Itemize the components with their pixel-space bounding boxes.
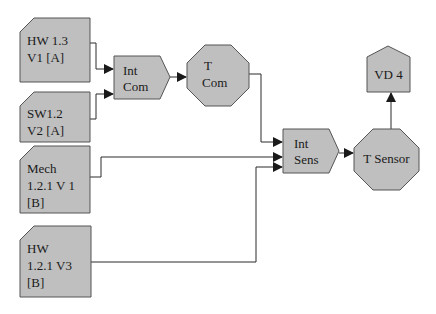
dependency-diagram: HW 1.3 V1 [A] SW1.2 V2 [A] Mech 1.2.1 V … xyxy=(0,0,436,314)
node-intsens[interactable]: Int Sens xyxy=(283,129,339,173)
node-label-line: VD 4 xyxy=(374,67,403,82)
node-label-line: V2 [A] xyxy=(27,123,64,138)
svg-text:T Sensor: T Sensor xyxy=(363,151,410,166)
node-label-line: [B] xyxy=(27,195,44,210)
svg-text:Int: Int xyxy=(123,63,138,78)
node-label-line: HW xyxy=(27,241,49,256)
svg-text:Sens: Sens xyxy=(294,152,319,167)
node-label-line: SW1.2 xyxy=(27,106,63,121)
node-sw12[interactable]: SW1.2 V2 [A] xyxy=(20,92,90,142)
edge-mech121-intsens xyxy=(90,157,282,177)
node-label-line: [B] xyxy=(27,275,44,290)
node-label-line: V1 [A] xyxy=(27,50,64,65)
node-label-line: Com xyxy=(123,79,148,94)
node-label-line: 1.2.1 V 1 xyxy=(27,178,75,193)
node-mech121[interactable]: Mech 1.2.1 V 1 [B] xyxy=(20,146,90,213)
svg-text:HW 1.3: HW 1.3 xyxy=(27,33,68,48)
svg-text:V2 [A]: V2 [A] xyxy=(27,123,64,138)
node-intcom[interactable]: Int Com xyxy=(114,56,170,99)
svg-text:Com: Com xyxy=(123,79,148,94)
node-label-line: Sens xyxy=(294,152,319,167)
svg-text:[B]: [B] xyxy=(27,195,44,210)
node-label-line: Mech xyxy=(27,161,57,176)
svg-text:1.2.1 V3: 1.2.1 V3 xyxy=(27,258,72,273)
node-label-line: Int xyxy=(294,136,309,151)
edge-hw13-intcom xyxy=(90,43,113,69)
svg-text:Mech: Mech xyxy=(27,161,57,176)
node-label-line: Int xyxy=(123,63,138,78)
svg-text:Com: Com xyxy=(202,75,227,90)
node-label-line: HW 1.3 xyxy=(27,33,68,48)
svg-text:SW1.2: SW1.2 xyxy=(27,106,63,121)
edge-tcom-intsens xyxy=(249,74,282,142)
edge-hw121-intsens xyxy=(91,167,282,262)
node-label-line: T Sensor xyxy=(363,151,410,166)
node-tcom[interactable]: T Com xyxy=(187,45,249,106)
edge-sw12-intcom xyxy=(90,94,113,119)
svg-text:Int: Int xyxy=(294,136,309,151)
node-hw121[interactable]: HW 1.2.1 V3 [B] xyxy=(20,226,91,297)
svg-text:T: T xyxy=(204,58,212,73)
node-vd4[interactable]: VD 4 xyxy=(367,46,410,92)
node-tsensor[interactable]: T Sensor xyxy=(354,129,419,190)
svg-text:[B]: [B] xyxy=(27,275,44,290)
node-label-line: Com xyxy=(202,75,227,90)
svg-text:HW: HW xyxy=(27,241,49,256)
svg-text:1.2.1 V 1: 1.2.1 V 1 xyxy=(27,178,75,193)
node-label-line: T xyxy=(204,58,212,73)
svg-text:VD 4: VD 4 xyxy=(374,67,403,82)
node-label-line: 1.2.1 V3 xyxy=(27,258,72,273)
svg-text:V1 [A]: V1 [A] xyxy=(27,50,64,65)
node-hw13[interactable]: HW 1.3 V1 [A] xyxy=(20,18,90,82)
